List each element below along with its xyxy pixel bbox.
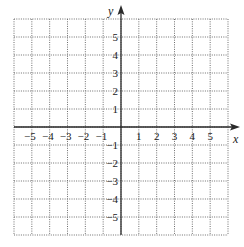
y-tick-label: 5 bbox=[113, 31, 119, 43]
y-tick-label: −3 bbox=[106, 175, 118, 187]
x-tick-label: −4 bbox=[42, 130, 54, 142]
y-tick-label: −1 bbox=[106, 139, 118, 151]
x-axis-label: x bbox=[232, 132, 239, 146]
y-tick-label: 4 bbox=[113, 49, 119, 61]
y-tick-label: −4 bbox=[106, 193, 118, 205]
x-tick-label: 2 bbox=[154, 130, 160, 142]
x-tick-label: −2 bbox=[78, 130, 90, 142]
x-tick-label: −3 bbox=[60, 130, 72, 142]
y-tick-label: −2 bbox=[106, 157, 118, 169]
x-tick-label: 3 bbox=[172, 130, 178, 142]
y-tick-label: 1 bbox=[113, 103, 119, 115]
x-tick-label: −5 bbox=[24, 130, 36, 142]
x-tick-labels: −5−4−3−2−112345 bbox=[24, 130, 213, 142]
y-tick-label: −5 bbox=[106, 211, 118, 223]
x-tick-label: 5 bbox=[207, 130, 213, 142]
coordinate-plane: x y −5−4−3−2−112345 54321−1−2−3−4−5 bbox=[0, 0, 244, 247]
x-tick-label: 4 bbox=[190, 130, 196, 142]
y-tick-label: 2 bbox=[113, 85, 119, 97]
y-axis-label: y bbox=[107, 4, 114, 18]
x-tick-label: 1 bbox=[136, 130, 142, 142]
axes bbox=[14, 5, 240, 235]
y-tick-label: 3 bbox=[113, 67, 119, 79]
